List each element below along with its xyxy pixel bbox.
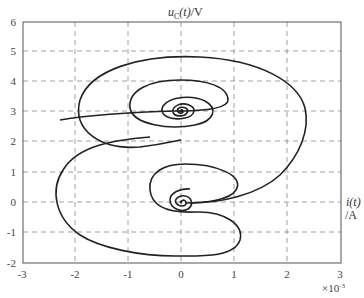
x-multiplier: ×10-3 [322, 282, 346, 294]
svg-text:-3: -3 [17, 268, 27, 280]
equilibrium-point-upper [179, 109, 182, 112]
y-tick-labels: 6 5 4 3 2 1 0 -1 -2 [7, 16, 17, 269]
svg-text:-2: -2 [70, 268, 79, 280]
svg-text:-1: -1 [7, 226, 16, 238]
svg-text:6: 6 [11, 16, 17, 28]
svg-text:0: 0 [11, 196, 17, 208]
y-axis-label: uC(t)/V [168, 5, 203, 21]
x-axis-label-line2: /A [345, 208, 357, 222]
svg-text:3: 3 [11, 105, 17, 117]
svg-text:1: 1 [11, 166, 17, 178]
equilibrium-point-lower [180, 201, 183, 204]
svg-text:1: 1 [231, 268, 237, 280]
svg-text:-2: -2 [7, 257, 16, 269]
x-axis-label-line1: i(t) [346, 195, 361, 209]
svg-text:5: 5 [11, 45, 17, 57]
svg-text:-1: -1 [123, 268, 132, 280]
svg-text:2: 2 [11, 135, 17, 147]
svg-text:3: 3 [337, 268, 343, 280]
svg-text:4: 4 [11, 75, 17, 87]
phase-plot: 6 5 4 3 2 1 0 -1 -2 -3 -2 -1 0 1 2 3 uC(… [0, 0, 364, 298]
svg-text:0: 0 [178, 268, 184, 280]
x-tick-labels: -3 -2 -1 0 1 2 3 [17, 268, 343, 280]
svg-text:2: 2 [284, 268, 290, 280]
